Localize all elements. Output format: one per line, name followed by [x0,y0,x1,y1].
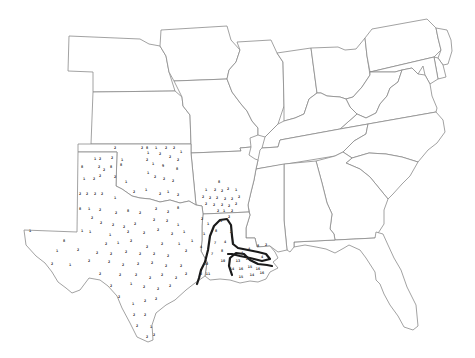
map-marker: 1 [167,190,169,194]
map-marker: 8 [215,229,217,233]
map-marker: 2 [171,232,173,236]
map-marker: 2 [110,252,112,256]
map-marker: 1 [152,162,154,166]
map-marker: 2 [154,175,156,179]
map-marker: 8 [176,167,178,171]
map-marker: 8 [127,209,129,213]
map-marker: 2 [127,230,129,234]
map-marker: 1 [235,188,237,192]
map-marker: 2 [265,243,267,247]
map-marker: 1 [56,249,58,253]
map-marker: 8 [146,146,148,150]
state-arkansas [191,147,258,214]
map-marker: 16 [260,271,264,275]
map-marker: 2 [185,249,187,253]
map-marker: 2 [165,264,167,268]
map-marker: 8 [79,207,81,211]
map-marker: 2 [228,215,230,219]
map-marker: 2 [213,203,215,207]
map-marker: 1 [132,302,134,306]
map-marker: 4 [241,251,243,255]
map-marker: 2 [205,202,207,206]
map-marker: 1 [220,219,222,223]
map-marker: 1 [177,223,179,227]
map-marker: 2 [110,284,112,288]
map-marker: 1 [150,325,152,329]
map-marker: 2 [101,192,103,196]
map-marker: 1 [121,158,123,162]
map-marker: 1 [147,151,149,155]
map-marker: 2 [185,272,187,276]
map-marker: 2 [125,250,127,254]
map-marker: 8 [218,180,220,184]
state-florida [294,232,418,330]
map-canvas: 2281221122112228228821981222112222222121… [0,0,475,358]
map-marker: 2 [173,146,175,150]
state-nebraska [68,36,175,92]
map-marker: 2 [224,197,226,201]
map-marker: 2 [143,231,145,235]
map-marker: 1 [180,150,182,154]
map-marker: 4 [248,247,250,251]
map-marker: 2 [136,324,138,328]
map-marker: 2 [231,209,233,213]
map-marker: 2 [122,263,124,267]
map-marker: 8 [221,249,223,253]
map-marker: 2 [202,195,204,199]
map-marker: 2 [99,174,101,178]
map-marker: 15 [248,265,252,269]
map-marker: 2 [200,272,202,276]
map-marker: 2 [153,218,155,222]
map-marker: 2 [99,157,101,161]
map-marker: 2 [88,259,90,263]
map-marker: 2 [115,211,117,215]
map-marker: 2 [153,333,155,337]
map-marker: 2 [144,299,146,303]
map-marker: 2 [166,219,168,223]
map-marker: 8 [257,244,259,248]
map-marker: 2 [149,276,151,280]
map-marker: 2 [157,228,159,232]
map-marker: 1 [223,209,225,213]
map-marker: 8 [120,163,122,167]
map-marker: 2 [227,187,229,191]
map-marker: 2 [133,190,135,194]
map-marker: 2 [114,146,116,150]
map-marker: 2 [161,242,163,246]
map-marker: 2 [161,273,163,277]
map-marker: 2 [94,192,96,196]
map-marker: 8 [110,165,112,169]
map-marker: 1 [178,242,180,246]
map-marker: 2 [108,260,110,264]
map-marker: 1 [81,229,83,233]
map-marker: 2 [177,158,179,162]
map-marker: 2 [139,211,141,215]
map-marker: 7 [232,242,234,246]
map-marker: 1 [205,188,207,192]
map-marker: 2 [79,192,81,196]
map-marker: 2 [133,313,135,317]
map-marker: 7 [211,252,213,256]
map-marker: 14 [230,267,234,271]
map-marker: 2 [238,195,240,199]
map-marker: 2 [167,254,169,258]
map-marker: 2 [99,272,101,276]
map-marker: 2 [112,223,114,227]
map-marker: 2 [159,152,161,156]
map-marker: 2 [153,252,155,256]
map-marker: 7 [214,241,216,245]
map-marker: 2 [141,146,143,150]
map-marker: 2 [135,273,137,277]
map-marker: 2 [99,208,101,212]
map-marker: 2 [137,262,139,266]
map-marker: 1 [130,282,132,286]
map-marker: 2 [177,193,179,197]
map-marker: 1 [183,230,185,234]
map-marker: 16 [239,267,243,271]
map-marker: 2 [130,239,132,243]
map-marker: 1 [191,239,193,243]
map-marker: 1 [88,207,90,211]
map-marker: 1 [29,229,31,233]
map-marker: 1 [114,196,116,200]
map-marker: 4 [261,255,263,259]
